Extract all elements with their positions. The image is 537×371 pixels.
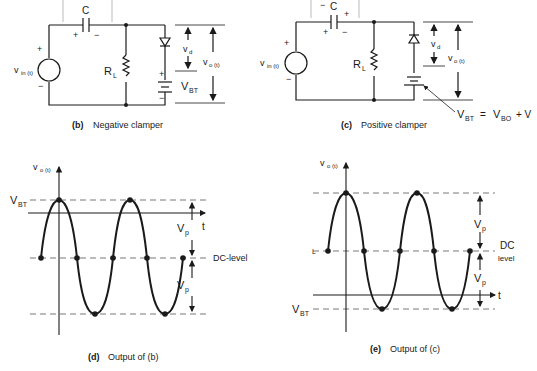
negative-clamper-labels: C +− +− vin (t) RL vd vo (t) +− VBT (b)N… [14,5,220,130]
svg-text:L: L [113,72,117,79]
svg-text:p: p [185,286,189,294]
svg-text:L: L [362,65,366,72]
svg-text:BT: BT [300,310,310,317]
svg-text:V: V [292,303,300,315]
svg-text:=: = [480,109,486,120]
svg-text:in (t): in (t) [21,70,33,76]
svg-text:V: V [457,108,465,120]
svg-text:L: L [312,248,316,255]
svg-text:BO: BO [501,115,512,122]
svg-text:v: v [320,158,325,168]
svg-text:V: V [181,80,189,92]
svg-text:p: p [482,225,486,233]
svg-text:V: V [177,279,185,291]
svg-text:−: − [286,74,291,84]
svg-text:+: + [284,38,289,48]
svg-text:Negative clamper: Negative clamper [93,120,163,130]
svg-text:in (t): in (t) [267,63,279,69]
svg-text:+: + [73,30,78,40]
svg-text:V: V [177,222,185,234]
output-c-waveform: vo (t) L VBT t Vp Vp DClevel (e)Output o… [292,158,515,354]
svg-text:+: + [344,9,349,19]
svg-text:Positive clamper: Positive clamper [361,120,427,130]
svg-text:V: V [474,272,482,284]
svg-text:t: t [498,290,501,301]
svg-text:o (t): o (t) [209,62,220,68]
svg-text:v: v [260,58,265,68]
svg-text:−: − [94,30,99,40]
svg-text:d: d [189,49,192,55]
svg-text:d: d [437,44,440,50]
output-b-waveform: vo (t) VBT t Vp Vp DC-level (d)Output of… [10,162,248,362]
positive-clamper-circuit [285,0,473,112]
svg-text:R: R [353,58,361,70]
svg-text:v: v [14,65,19,75]
svg-text:o (t): o (t) [40,167,51,173]
svg-text:(b): (b) [72,120,84,130]
svg-text:C: C [82,5,89,16]
svg-text:BT: BT [18,201,28,208]
svg-text:C: C [330,1,337,12]
svg-text:t: t [202,221,205,232]
svg-text:v: v [183,44,188,54]
svg-text:(e): (e) [370,344,381,354]
svg-text:V: V [493,108,501,120]
svg-text:V: V [474,218,482,230]
svg-text:BT: BT [465,115,475,122]
svg-text:−: − [38,81,43,91]
svg-text:v: v [448,53,453,63]
svg-text:o (t): o (t) [454,58,465,64]
svg-text:R: R [104,65,112,77]
svg-text:level: level [498,254,515,263]
svg-text:−: − [342,27,347,37]
svg-text:−: − [159,93,164,103]
svg-text:o (t): o (t) [327,163,338,169]
clamper-diagrams: C +− +− vin (t) RL vd vo (t) +− VBT (b)N… [0,0,537,371]
svg-text:v: v [203,57,208,67]
svg-text:Output of (c): Output of (c) [390,344,440,354]
svg-text:+: + [37,44,42,54]
svg-text:+ V: + V [516,109,532,120]
svg-text:V: V [10,194,18,206]
svg-text:BT: BT [189,87,199,94]
svg-text:+: + [323,27,328,37]
svg-text:(d): (d) [88,352,100,362]
svg-text:p: p [482,279,486,287]
positive-clamper-labels: −C+ +− +− vin (t) RL vd vo (t) VBT = VBO… [260,0,532,130]
svg-text:Output of (b): Output of (b) [108,352,159,362]
svg-text:+: + [159,69,164,79]
svg-text:−: − [320,0,325,10]
svg-text:DC-level: DC-level [213,253,248,263]
svg-text:(c): (c) [341,120,352,130]
svg-text:v: v [33,162,38,172]
svg-text:DC: DC [500,240,514,251]
svg-text:p: p [185,229,189,237]
svg-text:v: v [431,39,436,49]
